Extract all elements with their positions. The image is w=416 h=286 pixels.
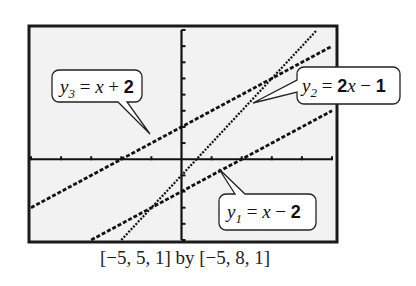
window-caption: [−5, 5, 1] by [−5, 8, 1] — [0, 247, 370, 269]
graph-figure: y3 = x + 2 y2 = 2x − 1 y1 = x − 2 [−5, 5… — [0, 0, 416, 286]
graph-svg: y3 = x + 2 y2 = 2x − 1 y1 = x − 2 — [0, 0, 416, 286]
